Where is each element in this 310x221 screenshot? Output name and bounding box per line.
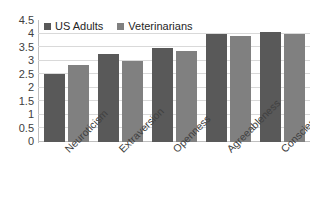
legend-item-us-adults: US Adults [44, 20, 103, 32]
chart-legend: US Adults Veterinarians [44, 20, 193, 32]
x-axis-tick-labels: NeuroticismExtraversionOpennessAgreeable… [0, 143, 310, 221]
bar [152, 48, 173, 142]
y-tick-label: 4 [0, 28, 34, 39]
bar [206, 34, 227, 142]
legend-label: US Adults [55, 20, 103, 32]
bar [98, 54, 119, 142]
y-tick-label: 2 [0, 82, 34, 93]
y-tick-label: 4.5 [0, 15, 34, 26]
y-tick-label: 1 [0, 109, 34, 120]
plot-area [38, 20, 310, 142]
bar [44, 74, 65, 142]
y-tick-label: 0.5 [0, 123, 34, 134]
y-tick-label: 2.5 [0, 69, 34, 80]
legend-swatch-icon [44, 23, 51, 30]
legend-item-veterinarians: Veterinarians [117, 20, 192, 32]
y-tick-label: 3.5 [0, 42, 34, 53]
y-tick-label: 3 [0, 55, 34, 66]
legend-swatch-icon [117, 23, 124, 30]
bar [260, 32, 281, 142]
legend-label: Veterinarians [128, 20, 192, 32]
bar-chart: 4.5 4 3.5 3 2.5 2 1.5 1 0.5 0 US Adults … [0, 0, 310, 221]
y-tick-label: 1.5 [0, 96, 34, 107]
